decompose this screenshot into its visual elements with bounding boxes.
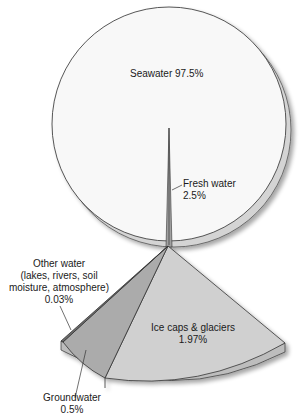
seawater-label: Seawater 97.5% xyxy=(130,68,203,80)
other-water-label-detail2: moisture, atmosphere) xyxy=(4,282,114,294)
other-water-label: Other water (lakes, rivers, soil moistur… xyxy=(4,258,114,306)
fresh-water-label-value: 2.5% xyxy=(183,190,236,202)
other-water-label-name: Other water xyxy=(4,258,114,270)
water-distribution-pie-chart xyxy=(0,0,299,414)
groundwater-label-value: 0.5% xyxy=(36,404,108,414)
seawater-slice xyxy=(52,7,291,247)
other-water-label-value: 0.03% xyxy=(4,294,114,306)
groundwater-label-name: Groundwater xyxy=(36,392,108,404)
ice-caps-label: Ice caps & glaciers 1.97% xyxy=(140,322,246,346)
ice-caps-label-value: 1.97% xyxy=(140,334,246,346)
other-water-label-detail1: (lakes, rivers, soil xyxy=(4,270,114,282)
other-water-leader xyxy=(60,306,71,330)
groundwater-label: Groundwater 0.5% xyxy=(36,392,108,414)
fresh-water-label-name: Fresh water xyxy=(183,178,236,190)
ice-caps-label-name: Ice caps & glaciers xyxy=(140,322,246,334)
fresh-water-label: Fresh water 2.5% xyxy=(183,178,236,202)
